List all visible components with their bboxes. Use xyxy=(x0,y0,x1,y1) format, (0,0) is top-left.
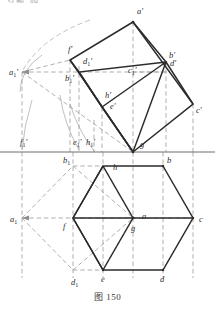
dot-d-top xyxy=(162,269,164,271)
arrow-a1-prime-left xyxy=(22,69,29,74)
rotation-arc-outer xyxy=(22,20,90,72)
label-b1-prime: b1′ xyxy=(65,73,74,84)
label-a1-top: a1 xyxy=(10,214,17,225)
label-b-top: b xyxy=(167,155,171,165)
label-a-prime: a′ xyxy=(137,6,143,16)
edge-a-prime-to-b-prime xyxy=(133,22,166,62)
label-a-top: a xyxy=(142,211,146,221)
hex-diag-f-to-e xyxy=(73,218,103,270)
construction-arcs-group xyxy=(20,20,94,151)
point-markers-group xyxy=(102,21,194,271)
front-face-parallelogram-dehb xyxy=(79,62,166,152)
front-view-dashed-lines-group xyxy=(22,22,193,152)
label-g-prime: g′ xyxy=(140,139,146,149)
label-d1-top: d1 xyxy=(71,277,78,288)
edge-e-prime-to-g-prime xyxy=(102,107,133,152)
edge-f-prime-to-d1 xyxy=(70,60,79,72)
dot-a-top xyxy=(132,217,135,220)
label-e1-prime: e1′ xyxy=(73,137,82,148)
label-d-prime: d′ xyxy=(170,58,176,68)
label-e-prime: e′ xyxy=(110,101,116,111)
technical-drawing-canvas: a′f′d1′b′d′a1′b1′c1′h′e′c′f1′e1′h1′g′b1h… xyxy=(0,0,215,310)
hex-diag-e-to-a xyxy=(103,218,133,270)
label-c-prime: c′ xyxy=(196,105,202,115)
dot-c-top xyxy=(192,217,194,219)
label-g-top: g xyxy=(131,223,135,233)
label-c1-prime: c1′ xyxy=(128,65,137,76)
aux-b1-to-g-top xyxy=(73,166,133,218)
hex-diag-f-to-h xyxy=(73,166,103,218)
figure-150-container: 习题 四 xyxy=(0,0,215,310)
front-view-solid-outline-group xyxy=(70,22,193,152)
aux-a1-to-g xyxy=(22,72,133,152)
label-a1-prime: a1′ xyxy=(9,67,18,78)
label-f1-prime: f1′ xyxy=(20,137,27,148)
point-labels-group: a′f′d1′b′d′a1′b1′c1′h′e′c′f1′e1′h1′g′b1h… xyxy=(9,6,203,288)
aux-a1-to-b1-top xyxy=(22,166,73,218)
label-h-prime: h′ xyxy=(105,90,111,100)
label-h-top: h xyxy=(113,162,117,172)
top-view-dashed-lines-group xyxy=(22,152,193,278)
dot-g-prime xyxy=(132,151,135,154)
label-d-top: d xyxy=(160,274,165,284)
dot-e-top xyxy=(102,269,104,271)
figure-caption: 图 150 xyxy=(0,290,215,303)
dot-a-prime xyxy=(132,21,135,24)
rotation-arc-a1 xyxy=(20,55,42,92)
label-f-prime: f′ xyxy=(68,44,72,54)
hex-diag-h-to-a xyxy=(103,166,133,218)
label-h1-prime: h1′ xyxy=(86,137,95,148)
label-e-top: e xyxy=(101,274,105,284)
label-c-top: c xyxy=(199,214,203,224)
label-f-top: f xyxy=(63,221,67,231)
edge-d1-to-e-prime xyxy=(79,72,102,107)
dot-b-top xyxy=(162,165,164,167)
label-d1-prime: d1′ xyxy=(83,56,92,67)
edge-b-prime-to-c-prime xyxy=(166,62,193,104)
label-b1-top: b1 xyxy=(63,155,70,166)
